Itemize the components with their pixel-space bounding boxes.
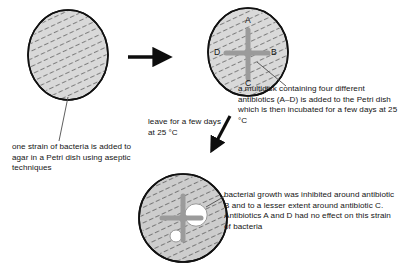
disk-label-a: A — [245, 15, 251, 25]
disk-label-b: B — [271, 47, 277, 57]
initial-petri-dish — [28, 10, 108, 100]
caption-leave-for-days: leave for a few days at 25 °C — [148, 117, 228, 138]
result-petri-dish — [139, 174, 227, 262]
leader-initial-dish — [59, 97, 68, 141]
caption-result: bacterial growth was inhibited around an… — [224, 190, 400, 232]
clear-zone-c — [170, 230, 182, 242]
caption-multidisk: a multidisk containing four different an… — [238, 84, 398, 126]
caption-bacteria: one strain of bacteria is added to agar … — [12, 142, 137, 174]
clear-zone-b — [185, 204, 207, 226]
figure-canvas: A B C D one strain of bacteria is added … — [0, 0, 400, 269]
disk-label-d: D — [214, 47, 220, 57]
